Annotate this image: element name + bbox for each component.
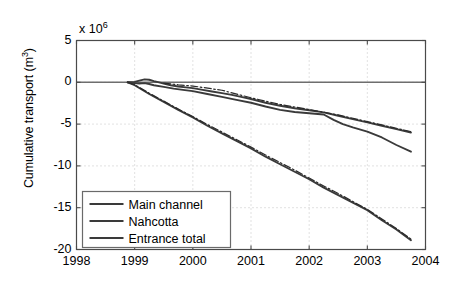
y-tick-label-3: -10: [53, 158, 71, 172]
chart-legend[interactable]: Main channelNahcottaEntrance total: [83, 192, 231, 248]
x-tick-label-6: 2004: [396, 254, 456, 268]
y-tick-label-1: 0: [65, 74, 72, 88]
y-tick-label-4: -15: [53, 200, 71, 214]
legend-label-0: Main channel: [129, 198, 203, 212]
y-axis-multiplier-base: x 10: [79, 22, 103, 36]
x-tick-label-5: 2003: [337, 254, 397, 268]
x-tick-label-2: 2000: [163, 254, 223, 268]
y-axis-multiplier-exponent: 6: [103, 20, 108, 30]
series-line-nahcotta: [128, 82, 411, 151]
x-tick-label-0: 1998: [47, 254, 107, 268]
y-axis-label: Cumulative transport (m3): [20, 8, 36, 228]
y-axis-label-text: Cumulative transport (m: [22, 57, 36, 188]
y-tick-label-0: 5: [65, 33, 72, 47]
chart-figure: Cumulative transport (m3) x 106 Main cha…: [0, 0, 462, 288]
x-tick-label-1: 1999: [105, 254, 165, 268]
y-tick-label-2: -5: [60, 116, 71, 130]
x-tick-label-3: 2001: [221, 254, 281, 268]
legend-label-2: Entrance total: [129, 232, 206, 246]
y-axis-multiplier: x 106: [79, 20, 108, 36]
y-axis-label-close: ): [22, 48, 36, 52]
x-tick-label-4: 2002: [279, 254, 339, 268]
legend-label-1: Nahcotta: [129, 215, 179, 229]
y-axis-label-superscript: 3: [20, 52, 30, 57]
